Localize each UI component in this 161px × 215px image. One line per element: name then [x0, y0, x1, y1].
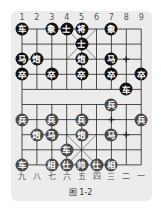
- file-label-top: 4: [64, 14, 69, 22]
- file-label-top: 1: [19, 14, 24, 22]
- black-piece[interactable]: 卒: [75, 68, 88, 81]
- black-piece[interactable]: 炮: [30, 53, 43, 66]
- file-label-top: 3: [49, 14, 54, 22]
- red-piece[interactable]: 车: [60, 143, 73, 156]
- black-piece[interactable]: 车: [120, 83, 133, 96]
- black-piece[interactable]: 炮: [75, 53, 88, 66]
- red-piece[interactable]: 炮: [75, 128, 88, 141]
- file-label-bottom: 七: [48, 173, 56, 181]
- red-piece[interactable]: 仕: [60, 158, 73, 171]
- file-label-bottom: 八: [33, 173, 41, 181]
- black-piece[interactable]: 卒: [16, 68, 29, 81]
- red-piece[interactable]: 炮: [30, 128, 43, 141]
- red-piece[interactable]: 相: [105, 158, 118, 171]
- black-piece[interactable]: 象: [105, 23, 118, 36]
- red-piece[interactable]: 车: [16, 158, 29, 171]
- red-piece[interactable]: 兵: [105, 98, 118, 111]
- file-label-bottom: 一: [137, 173, 145, 181]
- file-label-top: 2: [34, 14, 39, 22]
- black-piece[interactable]: 卒: [105, 68, 118, 81]
- red-piece[interactable]: 兵: [16, 113, 29, 126]
- red-piece[interactable]: 兵: [75, 113, 88, 126]
- file-label-bottom: 二: [122, 173, 130, 181]
- red-piece[interactable]: 兵: [45, 113, 58, 126]
- black-piece[interactable]: 士: [75, 38, 88, 51]
- black-piece[interactable]: 将: [75, 23, 88, 36]
- red-piece[interactable]: 帅: [75, 158, 88, 171]
- file-label-bottom: 九: [18, 173, 26, 181]
- red-piece[interactable]: 马: [45, 128, 58, 141]
- black-piece[interactable]: 卒: [135, 68, 148, 81]
- black-piece[interactable]: 车: [16, 23, 29, 36]
- black-piece[interactable]: 马: [16, 53, 29, 66]
- red-piece[interactable]: 仕: [90, 158, 103, 171]
- red-piece[interactable]: 相: [45, 158, 58, 171]
- file-label-bottom: 三: [107, 173, 115, 181]
- file-label-top: 7: [109, 14, 114, 22]
- file-label-top: 8: [124, 14, 129, 22]
- file-label-bottom: 六: [63, 173, 71, 181]
- figure-caption: 图 1-2: [0, 186, 161, 197]
- file-label-top: 9: [139, 14, 144, 22]
- red-piece[interactable]: 兵: [135, 113, 148, 126]
- black-piece[interactable]: 象: [45, 23, 58, 36]
- black-piece[interactable]: 士: [60, 23, 73, 36]
- black-piece[interactable]: 马: [105, 53, 118, 66]
- file-label-top: 6: [94, 14, 99, 22]
- file-label-bottom: 四: [93, 173, 101, 181]
- file-label-bottom: 五: [78, 173, 86, 181]
- black-piece[interactable]: 卒: [45, 68, 58, 81]
- file-label-top: 5: [79, 14, 84, 22]
- red-piece[interactable]: 马: [105, 128, 118, 141]
